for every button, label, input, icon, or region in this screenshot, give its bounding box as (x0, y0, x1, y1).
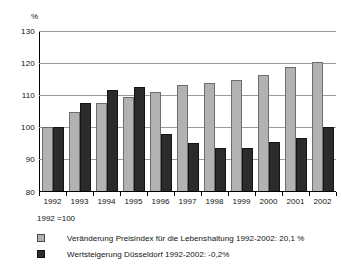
bar-1999-series-a (231, 80, 242, 191)
bar-chart: % 130 120 110 100 90 80 1992199319941995… (0, 0, 342, 269)
dark-swatch-icon (37, 250, 45, 258)
bar-1994-series-a (96, 103, 107, 191)
legend: Veränderung Preisindex für die Lebenshal… (37, 230, 337, 262)
bar-1997-series-a (177, 85, 188, 191)
bar-1996-series-a (150, 92, 161, 191)
x-tick (201, 192, 202, 196)
bar-group (148, 31, 175, 191)
x-tick-label-1996: 1996 (147, 197, 174, 206)
x-tick (66, 192, 67, 196)
x-tick-label-1992: 1992 (39, 197, 66, 206)
plot-area: 130 120 110 100 90 80 (39, 31, 336, 192)
base-note: 1992 =100 (37, 214, 75, 223)
bar-1995-series-a (123, 97, 134, 191)
x-tick (120, 192, 121, 196)
bar-group (201, 31, 228, 191)
x-tick (336, 192, 337, 196)
bar-group (121, 31, 148, 191)
light-gray-swatch-icon (37, 234, 45, 242)
x-tick-label-1997: 1997 (174, 197, 201, 206)
bar-group (40, 31, 67, 191)
bar-group (94, 31, 121, 191)
legend-label-series-b: Wertsteigerung Düsseldorf 1992-2002: -0,… (67, 250, 230, 259)
x-tick (255, 192, 256, 196)
bar-2002-series-a (312, 62, 323, 191)
legend-label-series-a: Veränderung Preisindex für die Lebenshal… (67, 234, 305, 243)
bar-1998-series-b (215, 148, 226, 192)
x-tick-label-1993: 1993 (66, 197, 93, 206)
x-tick-label-1999: 1999 (228, 197, 255, 206)
x-tick (174, 192, 175, 196)
y-tick-label-120: 120 (21, 59, 35, 68)
bar-1997-series-b (188, 143, 199, 191)
y-tick-label-90: 90 (26, 155, 35, 164)
bar-2001-series-b (296, 138, 307, 191)
x-tick-label-2001: 2001 (282, 197, 309, 206)
bar-2000-series-b (269, 142, 280, 191)
x-axis-labels: 1992199319941995199619971998199920002001… (39, 197, 336, 206)
bar-2000-series-a (258, 75, 269, 191)
legend-item-series-a: Veränderung Preisindex für die Lebenshal… (37, 230, 337, 246)
bar-1992-series-a (42, 127, 53, 191)
bar-1994-series-b (107, 90, 118, 191)
x-tick (228, 192, 229, 196)
bar-1999-series-b (242, 148, 253, 192)
bar-1993-series-b (80, 103, 91, 191)
y-tick-label-130: 130 (21, 27, 35, 36)
y-tick-label-100: 100 (21, 123, 35, 132)
bar-group (67, 31, 94, 191)
bar-1992-series-b (53, 127, 64, 191)
bar-1995-series-b (134, 87, 145, 191)
legend-item-series-b: Wertsteigerung Düsseldorf 1992-2002: -0,… (37, 246, 337, 262)
x-tick-label-1994: 1994 (93, 197, 120, 206)
x-tick-label-1995: 1995 (120, 197, 147, 206)
y-axis-unit-label: % (31, 12, 38, 21)
bar-2001-series-a (285, 67, 296, 191)
x-tick-label-2000: 2000 (255, 197, 282, 206)
bar-groups (40, 31, 336, 191)
y-tick-label-110: 110 (22, 91, 35, 100)
bar-group (255, 31, 282, 191)
x-tick (147, 192, 148, 196)
bar-group (175, 31, 202, 191)
bar-group (309, 31, 336, 191)
x-tick (282, 192, 283, 196)
bar-1996-series-b (161, 134, 172, 191)
bar-group (282, 31, 309, 191)
x-tick (309, 192, 310, 196)
bar-2002-series-b (323, 127, 334, 191)
bar-1998-series-a (204, 83, 215, 192)
x-tick-label-1998: 1998 (201, 197, 228, 206)
x-tick (93, 192, 94, 196)
y-tick-label-80: 80 (26, 188, 35, 197)
x-tick-label-2002: 2002 (309, 197, 336, 206)
bar-1993-series-a (69, 112, 80, 191)
bar-group (228, 31, 255, 191)
x-tick (39, 192, 40, 196)
